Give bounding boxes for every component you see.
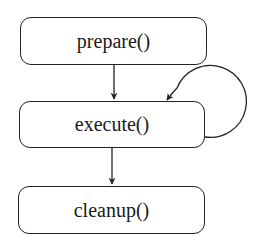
node-execute: execute() [19, 101, 205, 148]
node-prepare: prepare() [20, 17, 207, 65]
node-prepare-label: prepare() [77, 30, 150, 53]
node-execute-label: execute() [75, 113, 149, 136]
node-cleanup: cleanup() [18, 186, 205, 234]
node-cleanup-label: cleanup() [74, 199, 150, 222]
